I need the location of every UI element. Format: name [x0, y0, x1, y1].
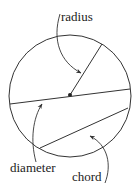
chord-label: chord: [72, 169, 102, 184]
diameter-line: [10, 89, 130, 104]
diameter-arrow: [33, 104, 42, 162]
radius-label: radius: [61, 9, 93, 24]
chord-line: [40, 108, 128, 148]
circle-diagram: radius diameter chord: [0, 0, 134, 190]
diameter-label: diameter: [10, 160, 56, 175]
